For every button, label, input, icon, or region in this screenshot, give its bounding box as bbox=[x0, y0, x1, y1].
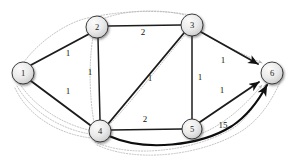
dotted-path-4-bottom-outer-to-6 bbox=[97, 82, 280, 155]
node-3-label: 3 bbox=[190, 20, 194, 30]
edge-5-6 bbox=[200, 82, 259, 122]
dotted-path-2-3-curve bbox=[105, 11, 188, 18]
edge-weight-3-4: 1 bbox=[148, 73, 153, 83]
dotted-path-4-to-2-vertical bbox=[90, 37, 94, 122]
node-1-label: 1 bbox=[21, 68, 25, 78]
edge-1-2 bbox=[31, 34, 89, 65]
node-4[interactable]: 4 bbox=[89, 120, 111, 142]
node-2[interactable]: 2 bbox=[86, 16, 108, 38]
edge-weight-3-5: 1 bbox=[198, 72, 203, 82]
node-6[interactable]: 6 bbox=[261, 62, 283, 84]
graph-canvas: 1 2 3 4 5 6 bbox=[0, 0, 297, 161]
dotted-path-1-to-4-middle bbox=[17, 86, 90, 134]
dotted-path-1-to-4-outer bbox=[20, 84, 89, 130]
edge-2-4 bbox=[98, 38, 100, 120]
edge-weight-4-5: 2 bbox=[143, 114, 148, 124]
edge-weight-group: 1 1 2 1 1 1 1 2 1 15 bbox=[66, 27, 228, 130]
node-3[interactable]: 3 bbox=[181, 14, 203, 36]
edge-2-3 bbox=[108, 25, 181, 26]
node-1[interactable]: 1 bbox=[12, 62, 34, 84]
edge-3-6 bbox=[201, 32, 258, 64]
node-5[interactable]: 5 bbox=[182, 119, 202, 139]
edge-weight-4-6: 15 bbox=[219, 120, 229, 130]
edge-weight-5-6: 1 bbox=[220, 85, 225, 95]
edge-weight-3-6: 1 bbox=[221, 55, 226, 65]
edge-weight-1-2: 1 bbox=[66, 48, 71, 58]
edge-4-5 bbox=[111, 129, 182, 130]
edge-weight-1-4: 1 bbox=[66, 86, 71, 96]
node-2-label: 2 bbox=[95, 22, 99, 32]
node-5-label: 5 bbox=[190, 124, 194, 134]
edge-weight-2-4: 1 bbox=[88, 67, 93, 77]
dotted-route-overlay-group bbox=[15, 11, 280, 155]
edge-weight-2-3: 2 bbox=[141, 27, 146, 37]
node-6-label: 6 bbox=[270, 68, 274, 78]
edge-3-4 bbox=[108, 33, 184, 124]
graph-diagram: 1 2 3 4 5 6 bbox=[0, 0, 297, 161]
dotted-path-1-to-4-inner bbox=[15, 88, 91, 138]
